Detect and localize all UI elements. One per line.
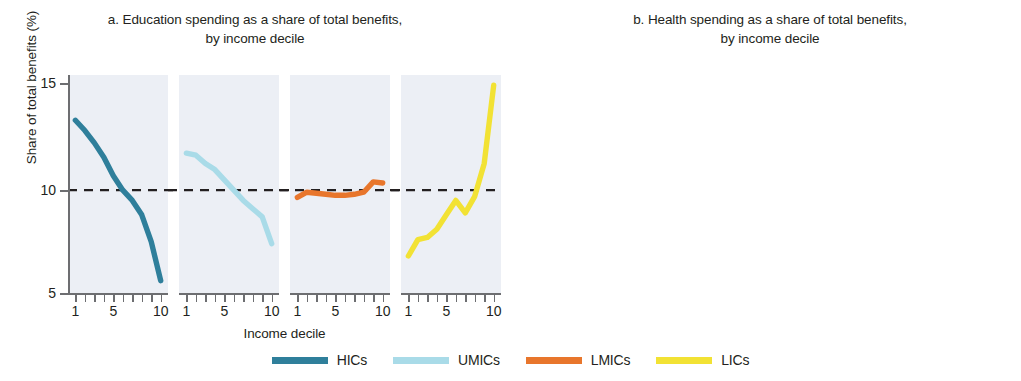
x-tick-2 <box>85 293 87 302</box>
x-tick-2 <box>196 293 198 302</box>
legend-swatch-icon-lics <box>656 357 712 364</box>
legend-swatch-icon-umics <box>393 357 449 364</box>
legend-item-umics[interactable]: UMICs <box>393 352 500 368</box>
x-axis-baseline-umics <box>179 293 279 295</box>
x-tick-5 <box>224 293 226 302</box>
x-tick-1 <box>186 293 188 302</box>
x-tick-5 <box>113 293 115 302</box>
x-axis-baseline-lics <box>401 293 501 295</box>
x-tick-8 <box>364 293 366 302</box>
x-tick-8 <box>142 293 144 302</box>
x-tick-9 <box>151 293 153 302</box>
legend-label-hics: HICs <box>337 352 367 368</box>
x-tick-label-10: 10 <box>148 303 174 319</box>
x-tick-6 <box>456 293 458 302</box>
x-tick-3 <box>316 293 318 302</box>
legend-swatch-icon-hics <box>272 357 328 364</box>
x-tick-label-5: 5 <box>211 303 237 319</box>
x-tick-8 <box>253 293 255 302</box>
x-tick-10 <box>383 293 385 302</box>
x-tick-7 <box>243 293 245 302</box>
x-tick-7 <box>354 293 356 302</box>
panel-background-lics <box>401 75 501 293</box>
chart-a-y-label-15: 15 <box>26 75 56 91</box>
legend: HICsUMICsLMICsLICs <box>0 352 1021 368</box>
x-tick-label-1: 1 <box>395 303 421 319</box>
x-axis-baseline-hics <box>68 293 168 295</box>
x-tick-4 <box>215 293 217 302</box>
figure-container: a. Education spending as a share of tota… <box>0 0 1021 381</box>
x-tick-3 <box>94 293 96 302</box>
x-tick-1 <box>408 293 410 302</box>
chart-a-y-axis-line <box>68 75 70 294</box>
x-tick-label-5: 5 <box>322 303 348 319</box>
x-tick-3 <box>427 293 429 302</box>
x-tick-8 <box>475 293 477 302</box>
x-tick-9 <box>373 293 375 302</box>
x-tick-5 <box>335 293 337 302</box>
chart-a-y-label-10: 10 <box>26 182 56 198</box>
legend-swatch-icon-lmics <box>526 357 582 364</box>
chart-a-x-axis-label: Income decile <box>68 326 501 341</box>
x-tick-6 <box>345 293 347 302</box>
x-tick-10 <box>272 293 274 302</box>
chart-a-plot-area <box>68 75 501 293</box>
x-tick-label-10: 10 <box>259 303 285 319</box>
legend-item-lmics[interactable]: LMICs <box>526 352 630 368</box>
legend-label-umics: UMICs <box>458 352 500 368</box>
x-tick-4 <box>104 293 106 302</box>
legend-item-lics[interactable]: LICs <box>656 352 749 368</box>
x-tick-9 <box>262 293 264 302</box>
x-tick-label-5: 5 <box>100 303 126 319</box>
x-tick-label-5: 5 <box>433 303 459 319</box>
x-tick-6 <box>123 293 125 302</box>
x-tick-7 <box>132 293 134 302</box>
chart-a-series-svg <box>68 75 501 293</box>
x-tick-5 <box>446 293 448 302</box>
x-tick-1 <box>297 293 299 302</box>
x-tick-label-1: 1 <box>284 303 310 319</box>
x-axis-baseline-lmics <box>290 293 390 295</box>
chart-b-title: b. Health spending as a share of total b… <box>511 10 1021 48</box>
x-tick-2 <box>418 293 420 302</box>
legend-item-hics[interactable]: HICs <box>272 352 367 368</box>
x-tick-label-1: 1 <box>173 303 199 319</box>
chart-a-y-tick-15 <box>60 83 69 85</box>
chart-panel-b: b. Health spending as a share of total b… <box>511 0 1021 348</box>
chart-a-y-tick-10 <box>60 190 69 192</box>
chart-a-y-axis-label: Share of total benefits (%) <box>24 0 39 203</box>
x-tick-1 <box>75 293 77 302</box>
x-tick-2 <box>307 293 309 302</box>
chart-a-title: a. Education spending as a share of tota… <box>0 10 510 48</box>
legend-label-lmics: LMICs <box>591 352 630 368</box>
x-tick-3 <box>205 293 207 302</box>
x-tick-9 <box>484 293 486 302</box>
x-tick-6 <box>234 293 236 302</box>
x-tick-7 <box>465 293 467 302</box>
x-tick-label-10: 10 <box>370 303 396 319</box>
x-tick-4 <box>326 293 328 302</box>
x-tick-4 <box>437 293 439 302</box>
x-tick-label-10: 10 <box>481 303 507 319</box>
x-tick-10 <box>494 293 496 302</box>
x-tick-10 <box>161 293 163 302</box>
x-tick-label-1: 1 <box>62 303 88 319</box>
chart-panel-a: a. Education spending as a share of tota… <box>0 0 510 348</box>
chart-a-y-label-5: 5 <box>26 285 56 301</box>
legend-label-lics: LICs <box>721 352 749 368</box>
